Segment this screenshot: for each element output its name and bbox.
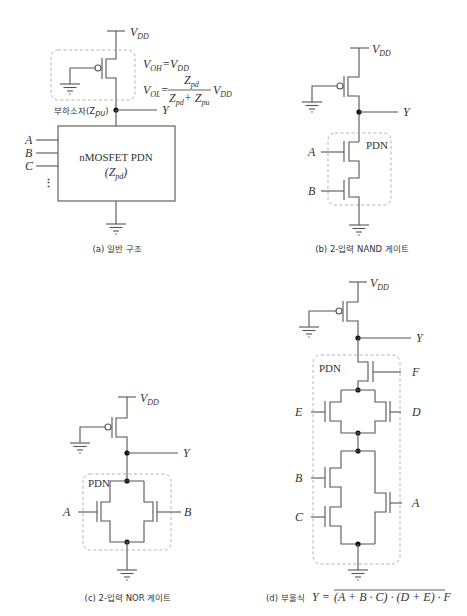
load-dashed-box xyxy=(51,50,135,100)
pmos-load-transistor xyxy=(60,31,116,110)
input-e-label: E xyxy=(294,405,303,419)
block-subtitle: (Zpd) xyxy=(105,165,128,181)
nmosfet-pdn-block xyxy=(58,126,175,201)
pdn-label: PDN xyxy=(366,139,388,151)
output-y-label: Y xyxy=(403,105,411,119)
caption-b: (b) 2-입력 NAND 게이트 xyxy=(315,244,409,254)
caption-a: (a) 일반 구조 xyxy=(92,244,141,254)
nmos-parallel-network xyxy=(78,481,181,542)
pdn-label: PDN xyxy=(88,477,110,489)
ground-icon xyxy=(299,327,319,337)
block-title: nMOSFET PDN xyxy=(79,151,153,163)
panel-d-boolean-gate: VDD Y PDN F E D xyxy=(266,276,452,604)
ground-icon xyxy=(348,570,368,580)
voh-equation: VOH=VDD xyxy=(143,57,189,73)
pdn-label: PDN xyxy=(319,362,341,374)
panel-a-general-structure: VDD VOH=VDD VOL= Zpd Zpd+ Zpu VDD Y 부하소자… xyxy=(24,25,232,254)
output-y-label: Y xyxy=(183,446,191,460)
svg-text:Zpd: Zpd xyxy=(184,73,200,89)
panel-b-nand-gate: VDD Y PDN A B (b) 2-입력 NAND 게이트 xyxy=(302,42,411,254)
vdd-label: VDD xyxy=(140,391,159,407)
input-a-label: A xyxy=(411,496,420,510)
nmos-transistor-f xyxy=(358,338,401,390)
input-b-label: B xyxy=(295,471,303,485)
nmos-transistor-a xyxy=(321,141,359,225)
pdn-dashed-box xyxy=(313,355,400,564)
caption-d: (d) 부울식 Y = (A + B · C) · (D + E) · F xyxy=(266,590,452,604)
input-a-label: A xyxy=(62,505,71,519)
pmos-load-transistor xyxy=(70,397,127,483)
output-y-label: Y xyxy=(162,103,170,117)
vdd-label: VDD xyxy=(130,25,149,41)
input-b-label: B xyxy=(184,505,192,519)
nmos-parallel-e-d xyxy=(311,390,401,433)
input-a-label: A xyxy=(307,145,316,159)
pmos-load-transistor xyxy=(299,282,358,338)
ground-icon xyxy=(349,225,369,235)
svg-text:(A + B · C) · (D + E) · F: (A + B · C) · (D + E) · F xyxy=(334,590,452,604)
pmos-load-transistor xyxy=(302,48,359,142)
svg-text:Zpd+ Zpu: Zpd+ Zpu xyxy=(169,91,209,107)
vdd-label: VDD xyxy=(370,276,389,292)
svg-text:(d) 부울식: (d) 부울식 xyxy=(266,593,305,603)
input-b-label: B xyxy=(25,146,33,160)
ground-icon xyxy=(106,224,126,234)
load-element-label: 부하소자(Zpu) xyxy=(54,106,109,118)
input-c-label: C xyxy=(295,510,304,524)
output-y-label: Y xyxy=(416,331,424,345)
input-b-label: B xyxy=(308,184,316,198)
vdd-label: VDD xyxy=(372,42,391,58)
svg-text:VDD: VDD xyxy=(213,83,232,99)
input-d-label: D xyxy=(411,405,421,419)
ground-icon xyxy=(70,443,90,453)
input-c-label: C xyxy=(25,159,34,173)
vol-equation: VOL= Zpd Zpd+ Zpu VDD xyxy=(143,73,232,107)
caption-c: (c) 2-입력 NOR 게이트 xyxy=(85,593,172,603)
cmos-diagrams: VDD VOH=VDD VOL= Zpd Zpd+ Zpu VDD Y 부하소자… xyxy=(0,0,467,616)
svg-text:Y =: Y = xyxy=(312,590,330,604)
input-f-label: F xyxy=(411,365,420,379)
ground-icon xyxy=(117,570,137,580)
panel-c-nor-gate: VDD Y PDN A B (c) 2-입력 NOR 게이트 xyxy=(62,391,192,603)
input-a-label: A xyxy=(24,133,33,147)
ground-icon xyxy=(302,102,322,112)
ground-icon xyxy=(60,84,80,94)
nmos-network-bc-a xyxy=(311,451,402,544)
more-inputs-ellipsis: ⋮ xyxy=(43,177,54,189)
svg-text:VOL=: VOL= xyxy=(143,83,169,99)
